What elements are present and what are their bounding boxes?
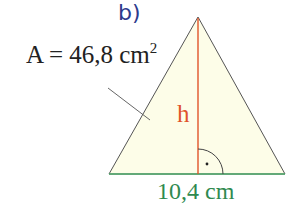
area-label: A = 46,8 cm2: [26, 40, 157, 69]
height-label: h: [177, 100, 190, 128]
area-exponent: 2: [150, 40, 158, 56]
area-pointer-line: [108, 88, 150, 120]
right-angle-dot: [206, 163, 209, 166]
base-label: 10,4 cm: [157, 178, 234, 204]
area-text: A = 46,8 cm: [26, 41, 150, 68]
part-label: b): [118, 0, 141, 25]
triangle-figure: [0, 0, 290, 204]
